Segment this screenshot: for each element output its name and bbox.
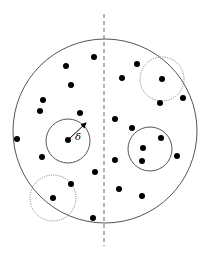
data-point [63, 63, 69, 69]
data-point [68, 181, 74, 187]
data-point [134, 61, 140, 67]
data-point [112, 116, 118, 122]
data-point [129, 125, 135, 131]
data-point [139, 193, 145, 199]
data-point [14, 136, 20, 142]
data-point [157, 100, 163, 106]
left-point-set [14, 54, 98, 221]
data-point [158, 135, 164, 141]
data-point [140, 145, 146, 151]
data-point [68, 82, 74, 88]
data-point [139, 158, 145, 164]
data-point [39, 154, 45, 160]
data-point [174, 153, 180, 159]
data-point [180, 95, 186, 101]
delta-circle-right [128, 127, 172, 171]
data-point [119, 75, 125, 81]
data-point [50, 195, 56, 201]
right-point-set [112, 61, 186, 199]
delta-circles [46, 119, 172, 171]
main-disk-boundary [13, 39, 197, 223]
data-point [116, 186, 122, 192]
data-point [112, 157, 118, 163]
data-point [90, 215, 96, 221]
data-point [91, 54, 97, 60]
data-point [77, 110, 83, 116]
data-point [37, 108, 43, 114]
closest-pair-diagram: δ [0, 0, 205, 255]
data-point [159, 76, 165, 82]
data-point [40, 97, 46, 103]
data-point [92, 169, 98, 175]
delta-label: δ [75, 131, 81, 142]
